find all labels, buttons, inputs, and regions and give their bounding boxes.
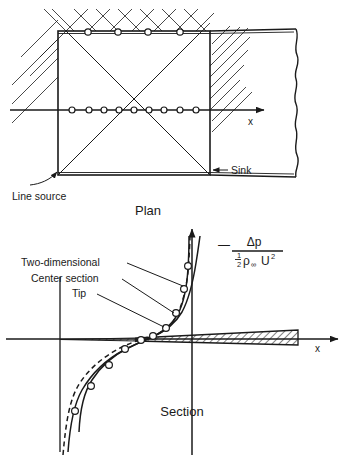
plan-top-edge-nodes	[85, 29, 183, 35]
tip-label: Tip	[72, 287, 86, 299]
leader-two-dimensional	[127, 263, 183, 286]
leader-tip	[97, 294, 164, 327]
airfoil-body	[60, 330, 298, 345]
formula-numerator: Δp	[247, 235, 262, 249]
figure-container: x Line source Sink	[0, 0, 345, 461]
plan-x-axis-label: x	[248, 116, 253, 127]
mach-lines-above-panel-left	[44, 9, 206, 31]
mach-lines-right-of-panel	[210, 26, 252, 132]
mach-lines-above-panel-right	[66, 9, 214, 31]
formula-minus-sign: —	[218, 238, 230, 252]
panel-right-extension	[210, 29, 296, 177]
formula-U: U	[261, 254, 270, 268]
formula-rho-subscript: ∞	[251, 260, 256, 269]
torn-edge	[295, 29, 299, 177]
formula-half-denominator: 2	[237, 260, 241, 269]
two-dimensional-label: Two-dimensional	[21, 256, 100, 268]
plan-caption: Plan	[135, 203, 161, 218]
formula-half-numerator: 1	[237, 251, 241, 260]
formula-rho: ρ	[243, 254, 250, 268]
section-x-axis-label: x	[315, 343, 320, 354]
technical-figure: x Line source Sink	[0, 0, 345, 461]
section-view: x Two	[6, 229, 338, 455]
section-caption: Section	[160, 404, 203, 419]
sink-label: Sink	[231, 164, 252, 176]
plan-axis-nodes	[69, 107, 199, 113]
leader-center-section	[122, 279, 174, 313]
center-section-label: Center section	[31, 272, 99, 284]
plan-view: x Line source Sink	[10, 9, 298, 218]
ordinate-formula: — Δp 1 2 ρ ∞ U 2	[218, 235, 283, 269]
line-source-annotation: Line source	[12, 172, 66, 202]
formula-U-exponent: 2	[271, 252, 275, 261]
curve-annotations	[97, 263, 183, 327]
wing-panel-outline	[58, 31, 210, 175]
sink-annotation: Sink	[213, 164, 252, 176]
line-source-label: Line source	[12, 190, 66, 202]
